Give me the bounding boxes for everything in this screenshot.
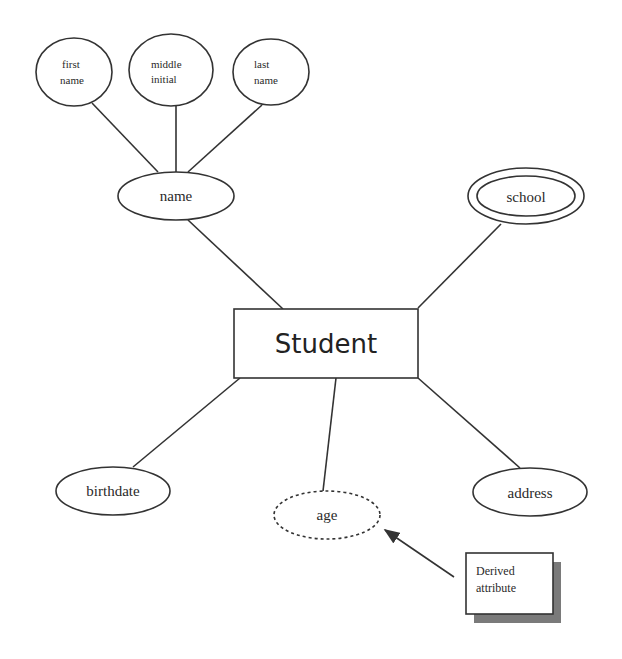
attribute-last-name: last name: [233, 39, 309, 105]
first-name-label-2: name: [60, 74, 84, 86]
name-label: name: [160, 188, 193, 204]
line-firstname-name: [92, 103, 158, 172]
birthdate-label: birthdate: [86, 483, 140, 499]
attribute-address: address: [473, 468, 587, 516]
middle-initial-label-2: initial: [151, 73, 177, 85]
attribute-first-name: first name: [36, 38, 112, 106]
line-school-student: [418, 224, 501, 308]
attribute-birthdate: birthdate: [56, 467, 170, 515]
callout-label-1: Derived: [476, 564, 515, 578]
entity-student: Student: [234, 309, 418, 378]
age-label: age: [317, 507, 338, 523]
last-name-label-2: name: [254, 74, 278, 86]
student-label: Student: [275, 329, 377, 359]
attribute-name: name: [118, 172, 234, 220]
line-name-student: [188, 220, 283, 309]
line-student-age: [323, 378, 336, 491]
line-lastname-name: [188, 105, 262, 172]
first-name-label-1: first: [62, 58, 80, 70]
callout-arrow-icon: [385, 530, 454, 577]
line-student-address: [418, 378, 520, 468]
er-diagram: first name middle initial last name name…: [0, 0, 622, 659]
line-student-birthdate: [133, 378, 240, 467]
attribute-middle-initial: middle initial: [129, 34, 213, 106]
address-label: address: [508, 485, 553, 501]
last-name-label-1: last: [254, 58, 269, 70]
attribute-age: age: [274, 491, 380, 539]
school-label: school: [506, 189, 545, 205]
attribute-school: school: [468, 168, 584, 224]
callout-label-2: attribute: [476, 581, 516, 595]
connectors: [92, 103, 520, 491]
derived-attribute-callout: Derived attribute: [466, 553, 561, 623]
middle-initial-label-1: middle: [151, 58, 182, 70]
